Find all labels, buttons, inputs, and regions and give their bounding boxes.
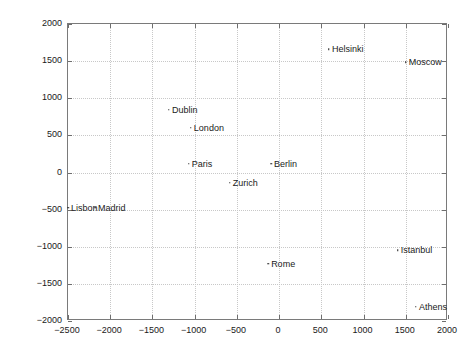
x-axis-tick: [448, 24, 449, 28]
y-axis-tick-label: 1000: [20, 92, 62, 102]
x-axis-tick-label: 2000: [437, 325, 457, 335]
gridline-vertical: [152, 24, 153, 319]
gridline-vertical: [279, 24, 280, 319]
x-axis-tick-label: 500: [313, 325, 328, 335]
x-axis-tick: [364, 24, 365, 28]
x-axis-tick-label: −500: [226, 325, 246, 335]
gridline-vertical: [110, 24, 111, 319]
x-axis-tick: [237, 24, 238, 28]
x-axis-tick: [68, 315, 69, 319]
gridline-horizontal: [68, 247, 446, 248]
y-axis-tick-label: 500: [20, 129, 62, 139]
x-axis-tick: [448, 315, 449, 319]
data-point-label: Rome: [271, 259, 295, 269]
data-point-marker: [188, 163, 190, 165]
gridline-vertical: [406, 24, 407, 319]
data-point-marker: [270, 163, 272, 165]
y-axis-tick-label: −1500: [20, 278, 62, 288]
y-axis-tick: [442, 61, 446, 62]
data-point-marker: [168, 109, 170, 111]
x-axis-tick: [110, 24, 111, 28]
y-axis-tick: [442, 24, 446, 25]
y-axis-tick: [442, 135, 446, 136]
y-axis-tick: [68, 135, 72, 136]
x-axis-tick: [152, 315, 153, 319]
data-point-label: Dublin: [172, 105, 198, 115]
data-point-label: Berlin: [274, 159, 297, 169]
x-axis-tick: [195, 315, 196, 319]
data-point-label: Moscow: [409, 57, 442, 67]
data-point-marker: [267, 263, 269, 265]
x-axis-tick-label: −1500: [139, 325, 164, 335]
y-axis-tick-label: −500: [20, 204, 62, 214]
data-point-marker: [397, 249, 399, 251]
data-point-label: Paris: [192, 159, 213, 169]
y-axis-tick: [442, 98, 446, 99]
x-axis-tick-label: 1500: [395, 325, 415, 335]
y-axis-tick: [442, 321, 446, 322]
gridline-horizontal: [68, 98, 446, 99]
data-point-marker: [229, 182, 231, 184]
data-point-label: London: [194, 123, 224, 133]
gridline-horizontal: [68, 135, 446, 136]
data-point-label: Athens: [419, 302, 447, 312]
gridline-horizontal: [68, 61, 446, 62]
y-axis-tick-label: 1500: [20, 55, 62, 65]
y-axis-tick: [68, 98, 72, 99]
y-axis-tick-label: −1000: [20, 241, 62, 251]
gridline-horizontal: [68, 173, 446, 174]
data-point-label: Istanbul: [401, 245, 433, 255]
x-axis-tick-label: −2500: [54, 325, 79, 335]
gridline-vertical: [237, 24, 238, 319]
y-axis-tick: [68, 61, 72, 62]
x-axis-tick: [321, 24, 322, 28]
y-axis-tick: [68, 284, 72, 285]
y-axis-tick: [68, 24, 72, 25]
x-axis-tick: [321, 315, 322, 319]
gridline-vertical: [364, 24, 365, 319]
data-point-marker: [405, 61, 407, 63]
data-point-marker: [94, 207, 96, 209]
x-axis-tick: [406, 24, 407, 28]
plot-area: HelsinkiMoscowDublinLondonParisBerlinZur…: [67, 23, 447, 320]
y-axis-tick: [68, 321, 72, 322]
y-axis-tick: [442, 210, 446, 211]
y-axis-tick-label: 2000: [20, 18, 62, 28]
y-axis-tick-label: −2000: [20, 315, 62, 325]
x-axis-tick: [406, 315, 407, 319]
x-axis-tick: [279, 24, 280, 28]
data-point-marker: [190, 127, 192, 129]
x-axis-tick: [195, 24, 196, 28]
data-point-label: Helsinki: [332, 44, 364, 54]
data-point-label: Madrid: [98, 203, 126, 213]
scatter-chart-figure: HelsinkiMoscowDublinLondonParisBerlinZur…: [0, 0, 466, 351]
y-axis-tick: [442, 173, 446, 174]
gridline-vertical: [195, 24, 196, 319]
x-axis-tick: [237, 315, 238, 319]
y-axis-tick: [442, 247, 446, 248]
x-axis-tick: [110, 315, 111, 319]
data-point-marker: [415, 306, 417, 308]
x-axis-tick: [152, 24, 153, 28]
gridline-horizontal: [68, 284, 446, 285]
x-axis-tick-label: −2000: [97, 325, 122, 335]
x-axis-tick-label: 0: [276, 325, 281, 335]
data-point-marker: [67, 207, 69, 209]
y-axis-tick: [68, 173, 72, 174]
data-point-label: Zurich: [233, 178, 258, 188]
data-point-marker: [328, 48, 330, 50]
gridline-vertical: [321, 24, 322, 319]
x-axis-tick: [279, 315, 280, 319]
x-axis-tick: [364, 315, 365, 319]
y-axis-tick: [68, 247, 72, 248]
x-axis-tick-label: −1000: [181, 325, 206, 335]
y-axis-tick: [442, 284, 446, 285]
y-axis-tick-label: 0: [20, 167, 62, 177]
x-axis-tick-label: 1000: [353, 325, 373, 335]
